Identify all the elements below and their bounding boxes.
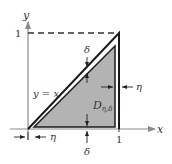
eta-label-left: η	[50, 131, 56, 142]
integration-region-diagram: y x 1 1 y = x Dη,δ δ δ η η	[0, 0, 172, 164]
x-tick-label: 1	[116, 134, 122, 145]
x-axis-label: x	[157, 123, 164, 136]
y-tick-label: 1	[15, 28, 21, 39]
shaded-region-d	[34, 46, 115, 127]
y-axis-label: y	[22, 9, 30, 22]
delta-label-bottom: δ	[84, 146, 90, 157]
curve-label: y = x	[32, 88, 59, 99]
delta-label-top: δ	[84, 44, 90, 55]
eta-label-right: η	[136, 81, 142, 92]
